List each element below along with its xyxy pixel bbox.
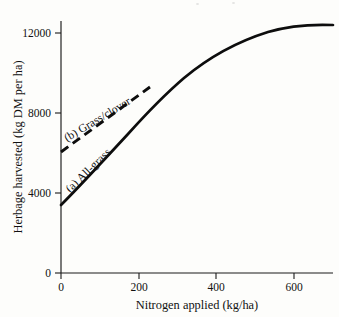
series-label-grass-clover: (b) Grass/clover	[62, 95, 133, 145]
y-tick-label-12000: 12000	[22, 27, 51, 39]
x-tick-label-200: 200	[130, 281, 148, 293]
y-tick-marks	[55, 33, 61, 273]
x-tick-label-600: 600	[285, 281, 303, 293]
y-axis-title: Herbage harvested (kg DM per ha)	[11, 60, 25, 233]
x-axis-title: Nitrogen applied (kg/ha)	[136, 298, 259, 312]
x-tick-labels: 0 200 400 600	[58, 281, 303, 293]
chart-svg: 0 4000 8000 12000 0 200 400 600 (b) Gras…	[0, 0, 339, 317]
x-tick-marks	[61, 273, 294, 279]
y-tick-label-8000: 8000	[28, 107, 51, 119]
scan-artifact	[196, 3, 199, 5]
y-tick-label-0: 0	[45, 267, 51, 279]
axis-group	[61, 21, 333, 273]
y-tick-labels: 0 4000 8000 12000	[22, 27, 51, 279]
series-label-all-grass: (a) All-grass	[63, 145, 114, 195]
scan-artifact	[232, 2, 235, 4]
x-tick-label-400: 400	[207, 281, 225, 293]
y-tick-label-4000: 4000	[28, 187, 51, 199]
x-tick-label-0: 0	[58, 281, 64, 293]
chart-figure: 0 4000 8000 12000 0 200 400 600 (b) Gras…	[0, 0, 339, 317]
